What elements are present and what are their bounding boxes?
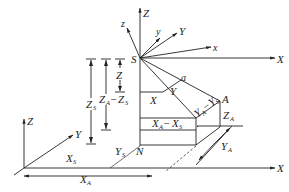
point-s-label: S bbox=[131, 53, 137, 65]
svg-text:x: x bbox=[212, 42, 218, 53]
xa-dimension: X A bbox=[24, 173, 152, 186]
za-label: Z A bbox=[223, 109, 234, 122]
svg-text:Y: Y bbox=[179, 25, 187, 37]
origin-tick bbox=[14, 168, 24, 175]
ya-minus-ys-label: Y A − Y S bbox=[191, 93, 221, 120]
svg-text:A: A bbox=[229, 115, 234, 122]
svg-text:S: S bbox=[93, 104, 97, 111]
point-a-label: A bbox=[221, 93, 229, 105]
xa-minus-xs-label: X A − X S bbox=[151, 117, 183, 130]
svg-text:A: A bbox=[86, 179, 91, 186]
global-y-label: Y bbox=[75, 128, 83, 140]
global-x-label: X bbox=[276, 162, 285, 174]
svg-text:y: y bbox=[155, 26, 161, 37]
projection-y-label: Y bbox=[170, 85, 178, 97]
svg-text:Z: Z bbox=[86, 98, 93, 110]
line-s-to-box-corner bbox=[140, 58, 196, 118]
svg-text:z: z bbox=[120, 18, 125, 29]
projection-x-label: X bbox=[149, 94, 158, 106]
local-x-axis bbox=[140, 47, 211, 58]
svg-text:S: S bbox=[125, 99, 129, 106]
point-n-label: N bbox=[135, 145, 144, 157]
vertical-dimensions: Z S Z A − Z S Z bbox=[86, 59, 129, 144]
svg-text:A: A bbox=[227, 146, 232, 153]
svg-text:Z: Z bbox=[99, 93, 106, 105]
svg-text:S: S bbox=[179, 123, 183, 130]
svg-text:X: X bbox=[276, 53, 285, 65]
projection-dashed-line bbox=[166, 146, 196, 171]
svg-text:Z: Z bbox=[118, 93, 125, 105]
svg-text:−: − bbox=[163, 117, 170, 129]
svg-text:Z: Z bbox=[143, 7, 150, 19]
point-a-small-label: a bbox=[181, 72, 186, 83]
station-global-axes: Z X Y bbox=[140, 7, 285, 65]
svg-text:S: S bbox=[73, 158, 77, 165]
xs-label: X S bbox=[65, 152, 77, 165]
global-z-label: Z bbox=[27, 115, 34, 127]
ya-dimension: Y A bbox=[196, 126, 243, 165]
coordinate-diagram: Z Y X X A X S Y S N Y A bbox=[0, 0, 289, 192]
svg-text:−: − bbox=[110, 93, 117, 105]
svg-text:Z: Z bbox=[223, 109, 230, 121]
svg-text:Z: Z bbox=[116, 69, 123, 81]
